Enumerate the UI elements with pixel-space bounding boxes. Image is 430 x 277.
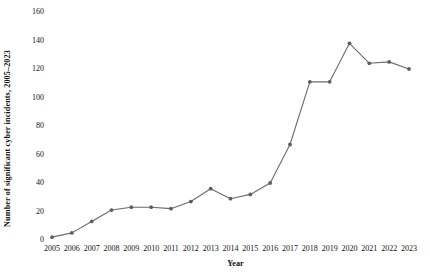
- y-axis-title: Number of significant cyber incidents, 2…: [0, 0, 14, 277]
- data-point-marker: [50, 235, 54, 239]
- y-axis-tick-labels: 020406080100120140160: [14, 0, 44, 277]
- data-point-marker: [308, 80, 312, 84]
- y-axis-tick-label: 140: [14, 37, 44, 45]
- data-point-marker: [129, 205, 133, 209]
- data-point-marker: [348, 41, 352, 45]
- plot-area: [48, 12, 423, 240]
- y-axis-tick-label: 100: [14, 94, 44, 102]
- y-axis-tick-label: 160: [14, 8, 44, 16]
- series-markers: [50, 41, 411, 239]
- y-axis-tick-label: 20: [14, 208, 44, 216]
- data-point-marker: [407, 67, 411, 71]
- x-axis-tick-labels: 2005200620072008200920102011201220132014…: [48, 244, 423, 256]
- data-point-marker: [268, 181, 272, 185]
- data-point-marker: [367, 61, 371, 65]
- data-point-marker: [169, 207, 173, 211]
- line-chart: Number of significant cyber incidents, 2…: [0, 0, 430, 277]
- data-point-marker: [229, 197, 233, 201]
- series-line: [52, 43, 409, 237]
- data-point-marker: [149, 205, 153, 209]
- y-axis-tick-label: 80: [14, 122, 44, 130]
- data-point-marker: [209, 187, 213, 191]
- data-point-marker: [189, 200, 193, 204]
- data-point-marker: [90, 220, 94, 224]
- data-point-marker: [248, 193, 252, 197]
- data-point-marker: [328, 80, 332, 84]
- y-axis-tick-label: 0: [14, 236, 44, 244]
- data-point-marker: [387, 60, 391, 64]
- data-point-marker: [70, 231, 74, 235]
- y-axis-tick-label: 40: [14, 179, 44, 187]
- series-plot: [48, 12, 423, 240]
- data-point-marker: [288, 143, 292, 147]
- x-axis-title: Year: [48, 259, 423, 268]
- data-point-marker: [110, 208, 114, 212]
- x-axis-tick-label: 2023: [392, 244, 426, 254]
- y-axis-tick-label: 120: [14, 65, 44, 73]
- y-axis-tick-label: 60: [14, 151, 44, 159]
